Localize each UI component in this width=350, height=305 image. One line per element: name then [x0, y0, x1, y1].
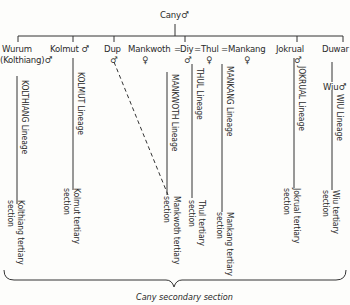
section-line-1: Wiu tertiary	[331, 190, 340, 234]
female-symbol-icon: ♀	[244, 56, 250, 65]
mankwoth-section-label: Mankwoth tertiary section	[162, 196, 181, 264]
section-line-2: section	[282, 188, 291, 243]
section-line-1: Jokrual tertiary	[292, 188, 301, 243]
section-line-1: Thul tertiary	[197, 200, 206, 246]
male-symbol-icon: ♂	[44, 54, 51, 65]
male-symbol-icon: ♂	[294, 56, 301, 65]
wiu-label: Wiu♂	[323, 82, 346, 92]
kolthiang-section-label: Kolthiang tertiary section	[6, 200, 25, 265]
thul-section-label: Thul tertiary section	[187, 200, 206, 246]
section-line-1: Mankwoth tertiary	[172, 196, 181, 264]
jokrual-lineage-label: JOKRUAL Lineage	[297, 66, 306, 131]
root-label: Cany♂	[160, 10, 188, 20]
thul-name: Thul	[201, 44, 219, 54]
marriage-sign: =	[194, 44, 201, 54]
mankang-name: Mankang	[228, 44, 266, 54]
female-symbol-icon: ♀	[142, 56, 148, 65]
kolmut-label: Kolmut ♂	[50, 44, 89, 54]
female-symbol-icon: ♀	[206, 56, 212, 65]
mankang-lineage-label: MANKANG Lineage	[225, 66, 234, 136]
jokrual-name: Jokrual	[276, 44, 304, 54]
section-line-2: section	[215, 212, 224, 276]
section-line-2: section	[321, 190, 330, 234]
wurum-alias-text: (Kolthiang)	[0, 54, 44, 65]
dup-name: Dup	[104, 44, 121, 54]
section-line-2: section	[187, 200, 196, 246]
male-symbol-icon: ♂	[184, 56, 191, 65]
section-line-2: section	[6, 200, 15, 265]
wurum-alias: (Kolthiang)♂	[0, 55, 52, 65]
male-symbol-icon: ♂	[181, 9, 188, 20]
kolthiang-lineage-label: KOLTHIANG Lineage	[20, 80, 29, 154]
mankwoth-name: Mankwoth	[128, 44, 170, 54]
wiu-lineage-label: WIU Lineage	[335, 94, 344, 141]
diy-name: Diy	[180, 44, 193, 54]
kolmut-name: Kolmut	[50, 43, 79, 54]
male-symbol-icon: ♂	[110, 56, 117, 65]
wurum-name: Wurum	[2, 44, 32, 54]
duwar-name: Duwar	[322, 44, 349, 54]
genealogy-diagram: Cany♂ Wurum (Kolthiang)♂ Kolmut ♂ Dup ♂ …	[0, 0, 350, 305]
jokrual-section-label: Jokrual tertiary section	[282, 188, 301, 243]
section-line-1: Kolthiang tertiary	[16, 200, 25, 265]
mankwoth-lineage-label: MANKWOTH Lineage	[170, 74, 179, 151]
brace-caption: Cany secondary section	[136, 292, 233, 302]
thul-lineage-label: THUL Lineage	[195, 68, 204, 120]
wiu-name: Wiu	[323, 81, 338, 92]
root-name: Cany	[160, 9, 181, 20]
wiu-section-label: Wiu tertiary section	[321, 190, 340, 234]
section-line-1: Kolmut tertiary	[72, 188, 81, 244]
kolmut-section-label: Kolmut tertiary section	[62, 188, 81, 244]
mankang-section-label: Mankang tertiary section	[215, 212, 234, 276]
male-symbol-icon: ♂	[338, 81, 345, 92]
kolmut-lineage-label: KOLMUT Lineage	[76, 72, 85, 135]
section-line-2: section	[162, 196, 171, 264]
marriage-sign: =	[221, 44, 228, 54]
section-line-2: section	[62, 188, 71, 244]
section-line-1: Mankang tertiary	[225, 212, 234, 276]
male-symbol-icon: ♂	[81, 43, 88, 54]
